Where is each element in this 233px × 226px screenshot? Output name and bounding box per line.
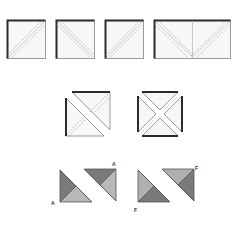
cut-square-two-triangles — [66, 92, 110, 136]
label-a-1: A — [51, 200, 55, 206]
label-f-1: F — [134, 207, 137, 213]
square-2 — [57, 21, 95, 59]
pieced-unit-a-1 — [60, 170, 92, 202]
pieced-unit-f-2 — [162, 169, 194, 201]
rectangle-4 — [155, 21, 231, 59]
label-a-2: A — [112, 161, 116, 167]
square-1 — [8, 21, 46, 59]
pieced-unit-a-2 — [84, 169, 116, 201]
diagram-canvas: A A F F — [0, 0, 233, 226]
square-3 — [106, 21, 144, 59]
cut-square-four-triangles — [138, 92, 182, 136]
pieced-unit-f-1 — [138, 170, 170, 202]
label-f-2: F — [195, 165, 198, 171]
